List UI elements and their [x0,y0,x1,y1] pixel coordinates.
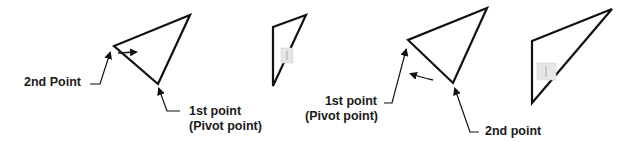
left-before-triangle [114,15,190,84]
right-rotation-arrow-icon [411,74,433,80]
rotate-diagram: 2nd Point 1st point (Pivot point) 1st po… [0,0,634,142]
left-second-point-leader [90,53,110,84]
right-second-point-label: 2nd point [485,124,541,139]
left-first-point-label: 1st point [189,104,241,119]
left-after-triangle [273,15,306,86]
right-second-point-leader [455,89,479,132]
right-after-triangle [532,9,612,103]
left-second-point-label: 2nd Point [24,75,81,90]
right-before-triangle [408,8,487,83]
right-pivot-label: (Pivot point) [300,109,378,124]
left-first-point-leader [159,89,180,111]
right-first-point-leader [384,50,406,103]
right-first-point-label: 1st point [300,94,377,109]
left-pivot-label: (Pivot point) [189,119,262,134]
